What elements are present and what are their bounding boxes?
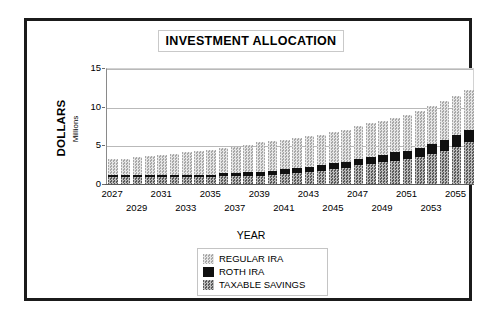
bar-segment	[194, 151, 204, 175]
x-tick-label: 2029	[126, 202, 147, 213]
bar-segment	[427, 106, 437, 144]
bar-column[interactable]	[268, 141, 278, 184]
y-tick-label: 10	[73, 101, 101, 112]
bar-column[interactable]	[243, 145, 253, 184]
bar-column[interactable]	[194, 151, 204, 184]
legend-item[interactable]: REGULAR IRA	[203, 252, 322, 265]
light-checker-swatch	[203, 254, 214, 264]
bar-segment	[415, 111, 425, 148]
bar-column[interactable]	[121, 159, 131, 185]
bar-segment	[206, 177, 216, 184]
bar-column[interactable]	[390, 118, 400, 184]
bar-segment	[145, 156, 155, 175]
bar-segment	[219, 176, 229, 184]
y-axis-title-text: DOLLARS	[55, 100, 67, 157]
bar-column[interactable]	[378, 121, 388, 184]
dark-checker-swatch	[203, 280, 214, 290]
bar-segment	[341, 130, 351, 162]
plot-area	[106, 68, 474, 184]
bar-column[interactable]	[452, 96, 462, 184]
bar-segment	[145, 177, 155, 184]
bar-column[interactable]	[157, 155, 167, 184]
gridline	[107, 108, 473, 109]
bar-column[interactable]	[219, 148, 229, 184]
legend-item[interactable]: TAXABLE SAVINGS	[203, 278, 322, 291]
x-tick-label: 2053	[420, 202, 441, 213]
y-tick-label: 0	[73, 178, 101, 189]
bar-column[interactable]	[145, 156, 155, 184]
x-tick-label: 2037	[224, 202, 245, 213]
bar-segment	[440, 140, 450, 151]
bar-column[interactable]	[354, 126, 364, 184]
bar-column[interactable]	[403, 115, 413, 184]
bar-segment	[292, 138, 302, 167]
bar-segment	[452, 147, 462, 184]
x-tick-label: 2027	[102, 188, 123, 199]
bar-segment	[403, 151, 413, 160]
bar-segment	[464, 142, 474, 184]
x-tick-label: 2055	[445, 188, 466, 199]
bar-segment	[121, 159, 131, 175]
x-tick-label: 2051	[396, 188, 417, 199]
bar-segment	[378, 162, 388, 184]
chart-legend: REGULAR IRAROTH IRATAXABLE SAVINGS	[197, 248, 328, 296]
bar-segment	[194, 177, 204, 184]
bar-segment	[182, 152, 192, 174]
x-tick-label: 2049	[371, 202, 392, 213]
x-tick-label: 2039	[249, 188, 270, 199]
legend-item[interactable]: ROTH IRA	[203, 265, 322, 278]
x-tick-label: 2031	[151, 188, 172, 199]
bar-segment	[305, 136, 315, 167]
bar-column[interactable]	[427, 106, 437, 184]
legend-item-label: TAXABLE SAVINGS	[219, 279, 305, 290]
bar-column[interactable]	[133, 157, 143, 184]
bar-segment	[354, 165, 364, 184]
bar-column[interactable]	[415, 111, 425, 184]
bar-segment	[133, 177, 143, 184]
bar-segment	[464, 90, 474, 130]
bar-segment	[268, 141, 278, 171]
y-axis-ticks: 051015	[69, 68, 101, 184]
bar-column[interactable]	[182, 152, 192, 184]
chart-title: INVESTMENT ALLOCATION	[166, 34, 337, 48]
bar-segment	[403, 115, 413, 151]
bar-segment	[464, 130, 474, 142]
y-tick-mark	[102, 145, 105, 146]
bar-segment	[452, 96, 462, 135]
bar-segment	[317, 171, 327, 184]
solid-black-swatch	[203, 267, 214, 277]
bar-segment	[305, 172, 315, 184]
bar-column[interactable]	[108, 159, 118, 184]
bar-segment	[403, 159, 413, 184]
bar-segment	[157, 177, 167, 184]
bar-segment	[256, 142, 266, 171]
bar-segment	[415, 157, 425, 184]
bar-segment	[157, 155, 167, 174]
bar-column[interactable]	[341, 130, 351, 184]
bar-segment	[317, 135, 327, 165]
bar-column[interactable]	[280, 140, 290, 184]
bar-column[interactable]	[440, 101, 450, 184]
bar-segment	[390, 118, 400, 153]
bar-segment	[329, 132, 339, 163]
bar-segment	[390, 161, 400, 184]
bar-column[interactable]	[206, 150, 216, 184]
bar-column[interactable]	[256, 142, 266, 184]
bar-segment	[280, 140, 290, 169]
x-axis-tick-labels: 2027202920312033203520372039204120432045…	[106, 186, 474, 220]
x-tick-label: 2033	[175, 202, 196, 213]
bar-column[interactable]	[231, 147, 241, 184]
bar-segment	[415, 148, 425, 157]
bar-column[interactable]	[366, 123, 376, 184]
bar-column[interactable]	[464, 90, 474, 184]
bar-column[interactable]	[292, 138, 302, 184]
bar-column[interactable]	[329, 132, 339, 184]
bar-column[interactable]	[170, 154, 180, 184]
x-tick-label: 2047	[347, 188, 368, 199]
bar-column[interactable]	[317, 135, 327, 184]
bar-segment	[329, 169, 339, 184]
bar-column[interactable]	[305, 136, 315, 184]
y-tick-mark	[102, 107, 105, 108]
chart-frame: INVESTMENT ALLOCATION DOLLARS Millions 0…	[24, 18, 472, 301]
bar-segment	[378, 121, 388, 155]
